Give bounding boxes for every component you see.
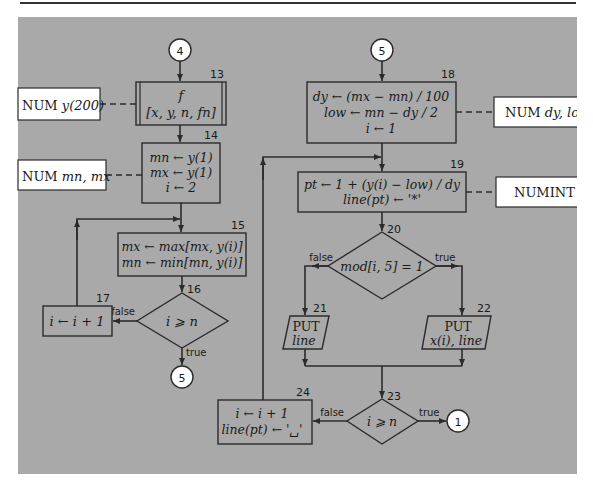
- node-14-init-minmax: 14 mn ← y(1) mx ← y(1) i ← 2: [142, 129, 220, 203]
- svg-text:line: line: [292, 333, 315, 348]
- svg-text:dy ← (mx − mn) / 100: dy ← (mx − mn) / 100: [313, 89, 450, 104]
- svg-text:21: 21: [313, 302, 327, 315]
- svg-text:14: 14: [204, 129, 218, 142]
- connector-4-in: 4: [169, 39, 191, 61]
- svg-text:24: 24: [296, 386, 310, 399]
- svg-text:18: 18: [441, 68, 455, 81]
- svg-text:20: 20: [387, 223, 401, 236]
- svg-text:mod[i, 5] = 1: mod[i, 5] = 1: [340, 259, 423, 274]
- svg-text:false: false: [320, 407, 344, 418]
- connector-5-in: 5: [371, 39, 393, 61]
- svg-text:5: 5: [179, 372, 186, 385]
- svg-text:i ⩾ n: i ⩾ n: [367, 414, 397, 429]
- connector-5-out: 5: [171, 366, 193, 388]
- svg-text:PUT: PUT: [292, 319, 320, 334]
- svg-text:true: true: [435, 252, 456, 263]
- svg-text:19: 19: [450, 158, 464, 171]
- svg-text:i ⩾ n: i ⩾ n: [166, 314, 198, 329]
- svg-text:NUM mn, mx: NUM mn, mx: [22, 169, 111, 184]
- svg-text:line(pt) ← '*': line(pt) ← '*': [343, 192, 421, 207]
- svg-text:23: 23: [387, 390, 401, 403]
- node-13-subroutine: 13 f [x, y, n, fn]: [136, 68, 226, 125]
- svg-text:mx ← max[mx, y(i)]: mx ← max[mx, y(i)]: [121, 239, 242, 254]
- svg-text:line(pt) ← '␣': line(pt) ← '␣': [221, 422, 302, 437]
- declaration-box-dy-low: NUM dy, low: [494, 97, 590, 127]
- flowchart: NUM y(200) NUM mn, mx NUM dy, low NUMINT…: [0, 0, 593, 490]
- connector-1-out: 1: [447, 410, 469, 432]
- svg-text:i ← 2: i ← 2: [166, 180, 196, 195]
- svg-text:4: 4: [177, 45, 184, 58]
- node-22-output: 22 PUT x(i), line: [422, 302, 491, 349]
- svg-text:false: false: [111, 306, 135, 317]
- svg-text:i ← i + 1: i ← i + 1: [50, 314, 105, 329]
- svg-text:mn ← min[mn, y(i)]: mn ← min[mn, y(i)]: [122, 255, 243, 270]
- svg-text:i ← i + 1: i ← i + 1: [236, 406, 289, 421]
- svg-text:x(i), line: x(i), line: [430, 333, 482, 348]
- svg-text:NUM y(200): NUM y(200): [22, 98, 104, 113]
- svg-text:true: true: [186, 347, 207, 358]
- svg-text:22: 22: [477, 302, 491, 315]
- svg-text:low ← mn − dy / 2: low ← mn − dy / 2: [324, 105, 438, 120]
- svg-text:mx ← y(1): mx ← y(1): [150, 165, 212, 180]
- svg-text:1: 1: [455, 416, 462, 429]
- svg-text:16: 16: [187, 283, 201, 296]
- node-15-update-minmax: 15 mx ← max[mx, y(i)] mn ← min[mn, y(i)]: [118, 219, 246, 276]
- node-20-decision: 20 mod[i, 5] = 1 false true: [309, 223, 455, 299]
- declaration-box-mn-mx: NUM mn, mx: [18, 160, 111, 190]
- svg-text:13: 13: [210, 68, 224, 81]
- node-24-clear-and-increment: 24 i ← i + 1 line(pt) ← '␣': [218, 386, 312, 444]
- svg-text:17: 17: [96, 292, 110, 305]
- node-21-output: 21 PUT line: [283, 302, 329, 349]
- svg-text:true: true: [419, 407, 440, 418]
- svg-text:15: 15: [231, 219, 245, 232]
- svg-text:5: 5: [379, 45, 386, 58]
- declaration-box-y200: NUM y(200): [18, 88, 104, 120]
- svg-text:false: false: [309, 252, 333, 263]
- svg-text:mn ← y(1): mn ← y(1): [149, 150, 212, 165]
- svg-text:[x, y, n, fn]: [x, y, n, fn]: [146, 105, 216, 120]
- svg-text:i ← 1: i ← 1: [366, 121, 396, 136]
- node-23-decision: 23 i ⩾ n false true: [320, 390, 439, 444]
- svg-text:pt ← 1 + (y(i) − low) / dy: pt ← 1 + (y(i) − low) / dy: [304, 177, 461, 192]
- svg-text:PUT: PUT: [444, 319, 472, 334]
